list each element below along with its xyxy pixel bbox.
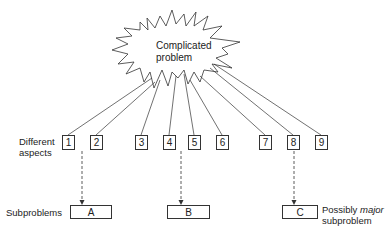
subproblems-label: Subproblems: [6, 207, 62, 218]
annotation-line2: subproblem: [322, 215, 384, 226]
aspect-box-3: 3: [135, 135, 148, 150]
aspect-box-5: 5: [188, 135, 201, 150]
aspect-box-9: 9: [315, 135, 328, 150]
central-label-line1: Complicated: [156, 40, 212, 52]
annotation-prefix: Possibly: [322, 204, 360, 215]
subproblem-box-a: A: [70, 205, 112, 219]
aspect-box-7: 7: [259, 135, 272, 150]
subproblem-box-c: C: [282, 205, 318, 219]
aspect-box-8: 8: [287, 135, 300, 150]
subproblem-connectors: [82, 151, 294, 202]
diagram-canvas: [0, 0, 385, 233]
aspects-label-line2: aspects: [19, 147, 55, 158]
aspect-box-1: 1: [62, 135, 75, 150]
central-problem-label: Complicated problem: [156, 40, 212, 64]
annotation-emphasis: major: [360, 204, 384, 215]
aspect-box-6: 6: [216, 135, 229, 150]
central-label-line2: problem: [156, 52, 212, 64]
aspect-box-4: 4: [163, 135, 176, 150]
aspect-connectors: [68, 64, 321, 135]
aspects-label-line1: Different: [19, 136, 55, 147]
subproblem-box-b: B: [167, 205, 210, 219]
aspects-label: Different aspects: [19, 136, 55, 158]
possibly-major-annotation: Possibly major subproblem: [322, 204, 384, 226]
aspect-box-2: 2: [90, 135, 103, 150]
